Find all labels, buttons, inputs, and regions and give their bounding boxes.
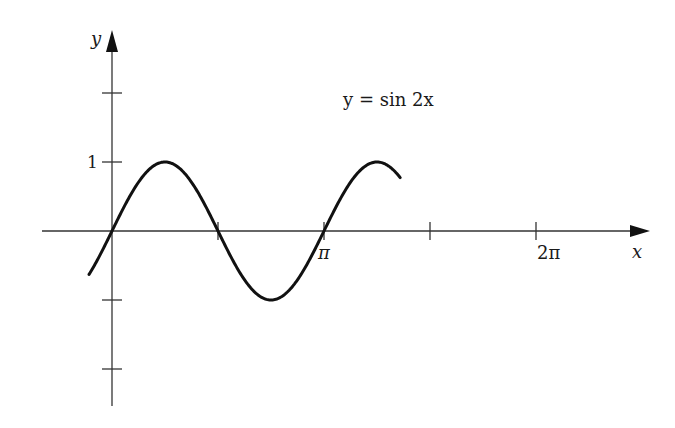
equation-label: y = sin 2x — [342, 89, 434, 110]
x-axis-arrow-icon — [630, 225, 650, 237]
x-tick-label-pi: π — [317, 242, 331, 263]
x-axis-label: x — [632, 241, 642, 262]
y-axis-arrow-icon — [106, 30, 118, 52]
y-tick-label-1: 1 — [87, 152, 98, 172]
y-axis-label: y — [90, 28, 102, 49]
x-tick-label-2pi: 2π — [537, 242, 560, 263]
sine-chart: y x 1 π 2π y = sin 2x — [0, 0, 675, 428]
